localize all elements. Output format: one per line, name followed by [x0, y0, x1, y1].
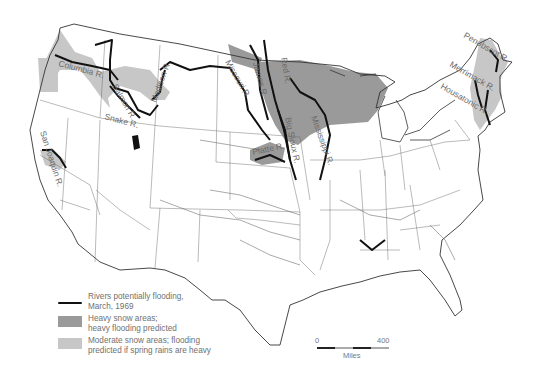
scale-end: 400: [377, 336, 390, 345]
legend-item-rivers: Rivers potentially flooding, March, 1969: [58, 292, 258, 311]
river-line-swatch: [58, 292, 82, 301]
scale-unit: Miles: [343, 351, 361, 360]
scale-start: 0: [315, 336, 319, 345]
great-salt-lake: [132, 135, 140, 150]
river-ohio: [360, 240, 385, 250]
scale-line: [317, 347, 389, 349]
river-missouri: [160, 62, 270, 140]
legend-rivers-line2: March, 1969: [88, 302, 184, 312]
legend-moderate-line2: predicted if spring rains are heavy: [88, 346, 211, 356]
legend-heavy-line1: Heavy snow areas;: [88, 314, 177, 324]
rivers-minor: [160, 140, 455, 265]
legend-rivers-line1: Rivers potentially flooding,: [88, 292, 184, 302]
legend-moderate-line1: Moderate snow areas; flooding: [88, 336, 211, 346]
legend: Rivers potentially flooding, March, 1969…: [58, 292, 258, 358]
legend-item-heavy: Heavy snow areas; heavy flooding predict…: [58, 314, 258, 333]
legend-item-moderate: Moderate snow areas; flooding predicted …: [58, 336, 258, 355]
heavy-snow-swatch: [58, 316, 82, 327]
legend-heavy-line2: heavy flooding predicted: [88, 324, 177, 334]
moderate-snow-swatch: [58, 338, 82, 349]
